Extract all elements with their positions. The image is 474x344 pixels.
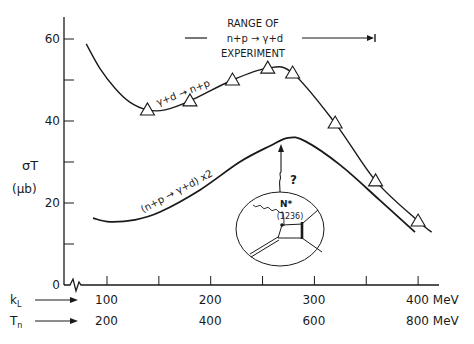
y-tick-label: 0 <box>52 278 60 292</box>
series-label-lower: (n+p → γ+d) x2 <box>139 168 215 215</box>
x-tick-label-Tn: 800 MeV <box>406 314 459 328</box>
inset-mass: (1236) <box>277 212 304 221</box>
range-title: RANGE OF <box>227 18 279 29</box>
y-tick-label: 40 <box>45 114 60 128</box>
range-sub: EXPERIMENT <box>221 48 286 59</box>
out-line-upper <box>303 210 318 223</box>
inset-diagram: ? N* (1236) <box>236 144 324 266</box>
inset-label: N* <box>280 199 293 209</box>
box-top <box>282 224 303 225</box>
y-tick-label: 20 <box>45 196 60 210</box>
x-tick-label-kL: 100 <box>95 293 118 307</box>
question-arrowhead <box>278 144 284 152</box>
x-axis-arrowhead <box>70 318 78 324</box>
axes: 0204060kL100200300400 MeVTn200400600800 … <box>9 17 460 330</box>
series-line-0 <box>86 44 431 232</box>
x-tick-label-Tn: 400 <box>199 314 222 328</box>
question-mark: ? <box>290 173 297 187</box>
data-point-triangle <box>286 66 300 78</box>
box-left <box>278 225 282 238</box>
x-axis-name-Tn: Tn <box>9 314 22 330</box>
x-axis-line <box>64 279 439 291</box>
y-axis-label: σT <box>22 158 38 173</box>
deuteron-line-a <box>250 237 278 254</box>
data-point-triangle <box>225 73 239 85</box>
y-axis-unit: (μb) <box>12 182 37 196</box>
question-wavy-arrow <box>280 150 281 192</box>
range-reaction: n+p → γ+d <box>227 33 283 44</box>
x-tick-label-Tn: 600 <box>302 314 325 328</box>
x-tick-label-kL: 200 <box>199 293 222 307</box>
chart: 0204060kL100200300400 MeVTn200400600800 … <box>0 0 474 344</box>
curves <box>86 44 431 232</box>
deuteron-line-b <box>251 240 279 257</box>
x-tick-label-Tn: 200 <box>95 314 118 328</box>
x-tick-label-kL: 400 MeV <box>406 293 459 307</box>
range-arrowhead <box>367 35 374 41</box>
out-line-lower <box>302 238 322 252</box>
x-axis-arrowhead <box>70 297 78 303</box>
x-axis-name-kL: kL <box>10 293 22 309</box>
x-tick-label-kL: 300 <box>302 293 325 307</box>
series-line-1 <box>93 137 415 232</box>
y-tick-label: 60 <box>45 32 60 46</box>
